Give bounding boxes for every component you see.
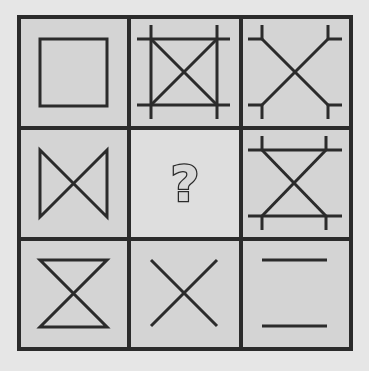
cell-r3c3-bg	[241, 239, 351, 349]
cell-r1c1-bg	[19, 17, 129, 128]
question-mark: ?	[170, 155, 199, 213]
cell-r1c2-crossed-square	[137, 25, 230, 119]
cell-r2c2-missing[interactable]: ?	[170, 155, 199, 213]
puzzle-matrix: ?	[0, 0, 369, 371]
